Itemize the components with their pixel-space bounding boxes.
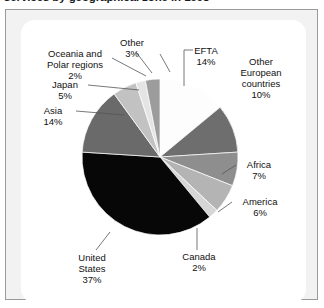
pie-label-united-states-name: United States	[64, 252, 120, 274]
pie-label-asia-name: Asia	[32, 105, 74, 116]
pie-label-africa: Africa 7%	[238, 159, 280, 181]
pie-label-japan: Japan 5%	[44, 79, 86, 101]
pie-label-united-states: United States 37%	[64, 252, 120, 285]
pie-label-other-european-countries-value: 10%	[231, 89, 291, 100]
pie-label-america: America 6%	[234, 196, 286, 218]
pie-label-other-name: Other	[112, 37, 152, 48]
pie-label-asia-value: 14%	[32, 116, 74, 127]
page-title: services by geographical zone in 1998	[4, 0, 320, 7]
pie-label-other: Other 3%	[112, 37, 152, 59]
pie-label-japan-value: 5%	[44, 90, 86, 101]
pie-label-africa-name: Africa	[238, 159, 280, 170]
pie-label-canada-name: Canada	[175, 251, 223, 262]
pie-label-oceania: Oceania and Polar regions 2%	[38, 48, 112, 81]
pie-label-other-value: 3%	[112, 48, 152, 59]
pie-label-america-name: America	[234, 196, 286, 207]
pie-label-japan-name: Japan	[44, 79, 86, 90]
pie-label-canada: Canada 2%	[175, 251, 223, 273]
pie-label-efta: EFTA 14%	[186, 45, 226, 67]
pie-label-other-european-countries: Other European countries 10%	[231, 56, 291, 100]
pie-label-efta-value: 14%	[186, 56, 226, 67]
pie-label-america-value: 6%	[234, 207, 286, 218]
pie-label-united-states-value: 37%	[64, 274, 120, 285]
pie-label-asia: Asia 14%	[32, 105, 74, 127]
pie-label-africa-value: 7%	[238, 170, 280, 181]
pie-label-canada-value: 2%	[175, 262, 223, 273]
pie-label-other-european-countries-name: Other European countries	[231, 56, 291, 89]
pie-label-oceania-name: Oceania and Polar regions	[38, 48, 112, 70]
pie-label-efta-name: EFTA	[186, 45, 226, 56]
